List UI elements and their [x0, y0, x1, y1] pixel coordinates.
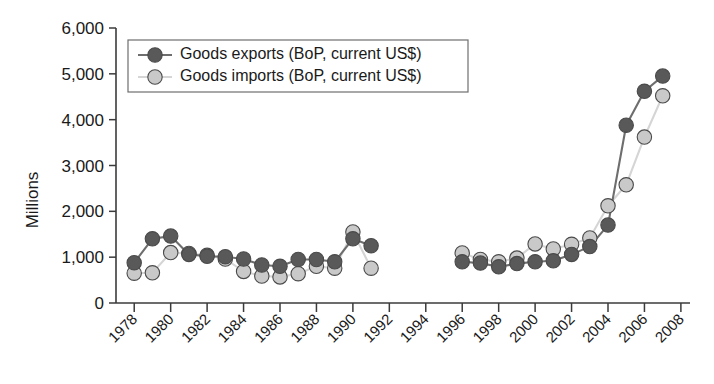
data-point-imports: [291, 267, 305, 281]
y-tick-label: 4,000: [61, 111, 104, 130]
x-tick-label: 1988: [287, 310, 323, 346]
data-point-exports: [346, 232, 360, 246]
data-point-imports: [164, 245, 178, 259]
data-point-exports: [601, 218, 615, 232]
y-tick-label: 3,000: [61, 157, 104, 176]
data-point-imports: [364, 261, 378, 275]
legend-label-1: Goods imports (BoP, current US$): [180, 67, 422, 84]
series-line-imports: [462, 96, 663, 262]
x-tick-label: 1980: [141, 310, 177, 346]
x-tick-label: 1986: [251, 310, 287, 346]
data-point-exports: [200, 249, 214, 263]
y-tick-label: 5,000: [61, 65, 104, 84]
data-point-imports: [528, 237, 542, 251]
x-tick-label: 1996: [433, 310, 469, 346]
data-point-imports: [656, 89, 670, 103]
data-point-exports: [145, 232, 159, 246]
data-point-exports: [127, 256, 141, 270]
data-point-exports: [236, 252, 250, 266]
data-point-exports: [492, 260, 506, 274]
x-tick-label: 1998: [469, 310, 505, 346]
data-point-exports: [510, 256, 524, 270]
data-point-exports: [328, 255, 342, 269]
chart-container: 01,0002,0003,0004,0005,0006,000Millions1…: [0, 0, 714, 384]
x-tick-label: 1990: [323, 310, 359, 346]
x-tick-label: 1992: [360, 310, 396, 346]
data-point-exports: [473, 256, 487, 270]
data-point-imports: [601, 199, 615, 213]
data-point-exports: [564, 247, 578, 261]
y-tick-label: 2,000: [61, 202, 104, 221]
data-point-exports: [164, 229, 178, 243]
legend-label-0: Goods exports (BoP, current US$): [180, 45, 422, 62]
x-tick-label: 2008: [651, 310, 687, 346]
x-tick-label: 1984: [214, 310, 250, 346]
legend-light-circle-marker: [148, 70, 162, 84]
data-point-exports: [619, 118, 633, 132]
line-chart: 01,0002,0003,0004,0005,0006,000Millions1…: [0, 0, 714, 384]
y-axis-title: Millions: [23, 172, 42, 229]
y-tick-label: 0: [95, 294, 104, 313]
x-tick-label: 1982: [178, 310, 214, 346]
x-tick-label: 2002: [542, 310, 578, 346]
legend-dark-circle-marker: [148, 48, 162, 62]
x-tick-label: 1978: [105, 310, 141, 346]
data-point-imports: [619, 178, 633, 192]
data-point-exports: [255, 258, 269, 272]
data-point-exports: [528, 255, 542, 269]
x-tick-label: 1994: [396, 310, 432, 346]
data-point-imports: [637, 130, 651, 144]
data-point-exports: [291, 252, 305, 266]
y-tick-label: 6,000: [61, 19, 104, 38]
data-point-exports: [637, 84, 651, 98]
data-point-exports: [364, 239, 378, 253]
data-point-exports: [656, 69, 670, 83]
x-tick-label: 2006: [615, 310, 651, 346]
series-line-exports: [462, 76, 663, 267]
x-tick-label: 2000: [506, 310, 542, 346]
data-point-imports: [145, 266, 159, 280]
data-point-exports: [273, 259, 287, 273]
data-point-exports: [309, 252, 323, 266]
data-point-exports: [583, 239, 597, 253]
data-point-exports: [218, 250, 232, 264]
y-tick-label: 1,000: [61, 248, 104, 267]
data-point-exports: [546, 254, 560, 268]
data-point-exports: [182, 247, 196, 261]
x-tick-label: 2004: [579, 310, 615, 346]
data-point-exports: [455, 255, 469, 269]
